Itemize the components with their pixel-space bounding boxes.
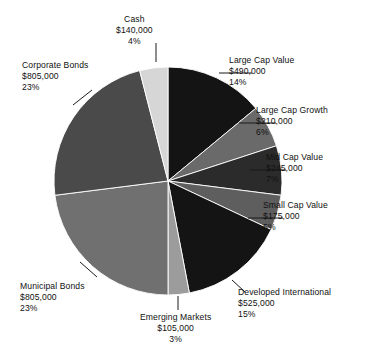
pie-label-percent-developed-international: 15% xyxy=(238,309,331,320)
pie-label-percent-large-cap-growth: 6% xyxy=(256,127,328,138)
pie-label-name-large-cap-value: Large Cap Value xyxy=(229,55,294,66)
pie-label-value-mid-cap-value: $245,000 xyxy=(266,163,323,174)
pie-label-value-cash: $140,000 xyxy=(116,25,153,36)
pie-label-name-emerging-markets: Emerging Markets xyxy=(140,312,211,323)
pie-label-corporate-bonds: Corporate Bonds$805,00023% xyxy=(22,60,88,94)
pie-label-value-corporate-bonds: $805,000 xyxy=(22,71,88,82)
pie-label-mid-cap-value: Mid Cap Value$245,0007% xyxy=(266,152,323,186)
pie-label-value-large-cap-value: $490,000 xyxy=(229,66,294,77)
pie-label-value-emerging-markets: $105,000 xyxy=(140,323,211,334)
pie-label-emerging-markets: Emerging Markets$105,0003% xyxy=(140,312,211,346)
pie-label-large-cap-growth: Large Cap Growth$210,0006% xyxy=(256,105,328,139)
pie-label-percent-emerging-markets: 3% xyxy=(140,334,211,345)
pie-label-percent-corporate-bonds: 23% xyxy=(22,82,88,93)
pie-label-percent-small-cap-value: 5% xyxy=(263,222,328,233)
pie-label-percent-mid-cap-value: 7% xyxy=(266,174,323,185)
pie-label-small-cap-value: Small Cap Value$175,0005% xyxy=(263,200,328,234)
pie-label-cash: Cash$140,0004% xyxy=(116,14,153,48)
pie-label-name-mid-cap-value: Mid Cap Value xyxy=(266,152,323,163)
pie-label-municipal-bonds: Municipal Bonds$805,00023% xyxy=(20,281,85,315)
pie-label-name-cash: Cash xyxy=(116,14,153,25)
pie-label-value-large-cap-growth: $210,000 xyxy=(256,116,328,127)
pie-label-large-cap-value: Large Cap Value$490,00014% xyxy=(229,55,294,89)
pie-label-name-large-cap-growth: Large Cap Growth xyxy=(256,105,328,116)
pie-label-percent-municipal-bonds: 23% xyxy=(20,303,85,314)
pie-label-name-corporate-bonds: Corporate Bonds xyxy=(22,60,88,71)
pie-label-percent-cash: 4% xyxy=(116,36,153,47)
pie-label-value-developed-international: $525,000 xyxy=(238,298,331,309)
pie-label-developed-international: Developed International$525,00015% xyxy=(238,287,331,321)
pie-label-value-municipal-bonds: $805,000 xyxy=(20,292,85,303)
pie-label-name-municipal-bonds: Municipal Bonds xyxy=(20,281,85,292)
pie-label-name-developed-international: Developed International xyxy=(238,287,331,298)
pie-slice-municipal-bonds[interactable] xyxy=(55,181,168,295)
pie-label-name-small-cap-value: Small Cap Value xyxy=(263,200,328,211)
pie-slice-group xyxy=(54,67,282,295)
pie-label-value-small-cap-value: $175,000 xyxy=(263,211,328,222)
pie-chart: Large Cap Value$490,00014%Large Cap Grow… xyxy=(0,0,388,364)
pie-label-percent-large-cap-value: 14% xyxy=(229,77,294,88)
